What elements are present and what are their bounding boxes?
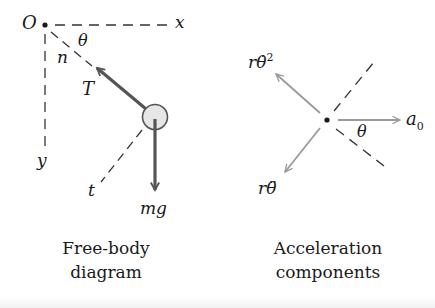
- x-axis-label: x: [175, 14, 185, 31]
- caption-line: diagram: [16, 260, 196, 284]
- tangent-axis-dashed: [101, 130, 142, 182]
- tension-label: T: [82, 80, 94, 98]
- origin-point: [42, 22, 47, 27]
- dashed-ref-upper: [334, 62, 374, 111]
- y-axis-label: y: [37, 152, 47, 169]
- exponent-2: 2: [266, 51, 273, 64]
- r-symbol: r: [248, 52, 256, 72]
- particle-point: [324, 117, 329, 122]
- weight-label: mg: [140, 200, 167, 217]
- centripetal-accel-label: rθ̇2: [248, 52, 273, 71]
- a-symbol: a: [406, 108, 417, 129]
- theta-dot-symbol: θ̇: [256, 52, 266, 72]
- centripetal-accel-arrow: [276, 74, 320, 113]
- theta-label-fbd: θ: [78, 33, 88, 49]
- r-symbol: r: [258, 178, 266, 198]
- acceleration-caption: Acceleration components: [238, 236, 418, 284]
- tangential-accel-label: rθ̈: [258, 180, 276, 197]
- acceleration-diagram: [276, 62, 400, 172]
- caption-line: Free-body: [16, 236, 196, 260]
- subscript-0: 0: [417, 120, 424, 133]
- theta-label-accel: θ: [357, 124, 367, 140]
- page-bottom-edge: [0, 296, 435, 308]
- tension-arrow: [97, 68, 146, 109]
- tangential-accel-arrow: [285, 128, 320, 172]
- normal-label: n: [57, 49, 68, 66]
- origin-label: O: [22, 14, 37, 32]
- frame-accel-label: a0: [406, 110, 424, 132]
- free-body-caption: Free-body diagram: [16, 236, 196, 284]
- tangent-label: t: [88, 182, 95, 199]
- caption-line: components: [238, 260, 418, 284]
- theta-ddot-symbol: θ̈: [266, 178, 276, 198]
- caption-line: Acceleration: [238, 236, 418, 260]
